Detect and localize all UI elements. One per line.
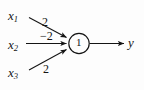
diagram-canvas <box>0 0 144 90</box>
output-label-y: y <box>128 36 134 49</box>
weight-label-x1: 2 <box>42 16 48 28</box>
input-subscript-x1: 1 <box>14 14 18 24</box>
input-subscript-x2: 2 <box>14 43 18 53</box>
input-label-x2: x2 <box>8 38 18 53</box>
neuron-diagram: x1 x2 x3 2 −2 2 1 y <box>0 0 144 90</box>
unit-node-label: 1 <box>76 37 82 48</box>
weight-label-x3: 2 <box>43 63 49 75</box>
input-label-x3: x3 <box>8 66 18 81</box>
input-subscript-x3: 3 <box>14 71 18 81</box>
input-label-x1: x1 <box>8 9 18 24</box>
weight-label-x2: −2 <box>40 30 53 42</box>
